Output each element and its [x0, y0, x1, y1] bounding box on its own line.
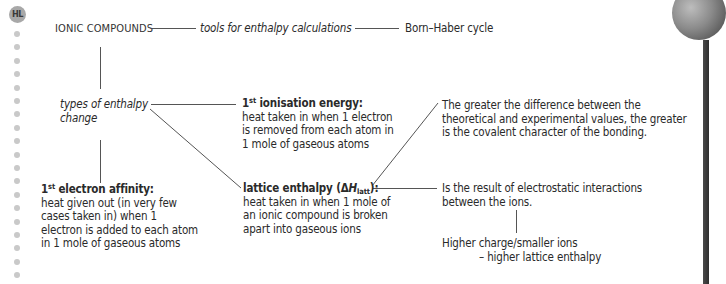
- node-born-haber-cycle: Born–Haber cycle: [405, 22, 493, 36]
- ionisation-title-sup: st: [249, 96, 256, 105]
- node-covalent-character-note: The greater the difference between the t…: [442, 99, 687, 140]
- covalent-line-3: is the covalent character of the bonding…: [442, 126, 687, 140]
- affinity-line-2: cases taken in) when 1: [41, 210, 198, 224]
- lattice-line-1: heat taken in when 1 mole of: [243, 196, 390, 210]
- node-electrostatic-note: Is the result of electrostatic interacti…: [442, 182, 642, 209]
- ionisation-line-1: heat taken in when 1 electron: [242, 111, 394, 125]
- lattice-line-3: apart into gaseous ions: [243, 223, 390, 237]
- covalent-line-2: theoretical and experimental values, the…: [442, 113, 687, 127]
- ionisation-line-2: is removed from each atom in: [242, 124, 394, 138]
- affinity-line-3: electron is added to each atom: [41, 224, 198, 238]
- affinity-line-1: heat given out (in very few: [41, 197, 198, 211]
- node-ionic-compounds: IONIC COMPOUNDS: [55, 22, 153, 36]
- affinity-title-num: 1: [41, 182, 48, 196]
- ionisation-title-num: 1: [242, 96, 249, 110]
- lattice-title-post: ):: [370, 181, 379, 195]
- lattice-line-2: an ionic compound is broken: [243, 209, 390, 223]
- ionisation-title-text: ionisation energy:: [256, 96, 363, 110]
- covalent-line-1: The greater the difference between the: [442, 99, 687, 113]
- line-types-to-lattice: [150, 109, 241, 188]
- node-types-of-enthalpy-change: types of enthalpy change: [60, 98, 148, 125]
- electrostatic-line-1: Is the result of electrostatic interacti…: [442, 182, 642, 196]
- node-first-electron-affinity: 1st electron affinity: heat given out (i…: [41, 183, 198, 251]
- types-line-1: types of enthalpy: [60, 98, 148, 112]
- affinity-title-text: electron affinity:: [55, 182, 154, 196]
- lattice-title-pre: lattice enthalpy (Δ: [243, 181, 349, 195]
- higher-charge-line-2: – higher lattice enthalpy: [442, 251, 601, 265]
- node-tools-for-enthalpy: tools for enthalpy calculations: [200, 22, 351, 36]
- node-lattice-enthalpy: lattice enthalpy (ΔHlatt): heat taken in…: [243, 182, 390, 236]
- affinity-title: 1st electron affinity:: [41, 183, 198, 197]
- types-line-2: change: [60, 112, 148, 126]
- affinity-line-4: in 1 mole of gaseous atoms: [41, 237, 198, 251]
- node-higher-charge-note: Higher charge/smaller ions – higher latt…: [442, 237, 601, 264]
- electrostatic-line-2: between the ions.: [442, 196, 642, 210]
- lattice-title: lattice enthalpy (ΔHlatt):: [243, 182, 390, 196]
- lattice-title-h: H: [349, 181, 358, 195]
- ionisation-title: 1st ionisation energy:: [242, 97, 394, 111]
- affinity-title-sup: st: [48, 182, 55, 191]
- node-first-ionisation-energy: 1st ionisation energy: heat taken in whe…: [242, 97, 394, 151]
- higher-charge-line-1: Higher charge/smaller ions: [442, 237, 601, 251]
- ionisation-line-3: 1 mole of gaseous atoms: [242, 138, 394, 152]
